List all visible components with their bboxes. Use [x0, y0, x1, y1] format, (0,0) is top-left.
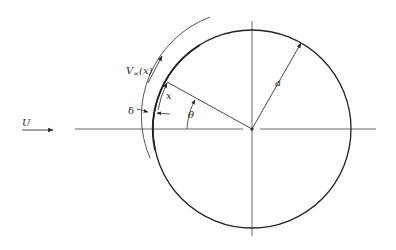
arc-length-label: x: [166, 90, 172, 101]
radius-label: a: [275, 77, 281, 88]
theta-label: θ: [188, 109, 194, 120]
delta-arrow-right: [157, 113, 170, 114]
radial-line: [167, 82, 252, 129]
edge-velocity-label: V∞(x): [126, 65, 153, 78]
delta-arrow-left: [137, 109, 148, 112]
freestream-label: U: [22, 117, 31, 128]
cylinder-diagram: U V∞(x) x δ θ a: [0, 0, 396, 250]
boundary-layer-edge: [141, 17, 210, 158]
delta-label: δ: [128, 105, 134, 116]
center-point: [250, 127, 253, 130]
